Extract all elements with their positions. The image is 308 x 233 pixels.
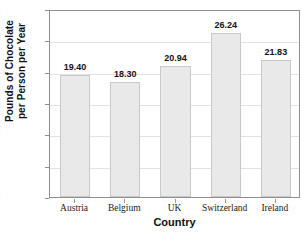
y-axis-tick-mark <box>45 198 49 199</box>
bar <box>160 66 190 197</box>
y-axis-title: Pounds of Chocolate per Person per Year <box>3 0 29 149</box>
x-axis-tick-label: UK <box>168 203 182 213</box>
x-axis-tick-label: Austria <box>60 203 88 213</box>
y-axis-title-line-2: per Person per Year <box>16 23 28 119</box>
bar-value-label: 21.83 <box>247 47 305 57</box>
bar-value-label: 26.24 <box>197 20 255 30</box>
plot-area: 19.4018.3020.9426.2421.83 <box>49 10 300 198</box>
bar-slot: 18.30 <box>110 11 140 197</box>
y-axis-title-line-1: Pounds of Chocolate <box>4 20 16 122</box>
bar-slot: 19.40 <box>60 11 90 197</box>
bar-slot: 21.83 <box>261 11 291 197</box>
bar <box>261 60 291 197</box>
bar-slot: 26.24 <box>211 11 241 197</box>
chart-title-cropped <box>0 0 308 6</box>
bar <box>110 82 140 197</box>
x-axis-tick-label: Ireland <box>261 203 288 213</box>
bar-value-label: 18.30 <box>96 69 154 79</box>
x-axis-title: Country <box>49 216 300 228</box>
bar-slot: 20.94 <box>160 11 190 197</box>
bar-chart-figure: Pounds of Chocolate per Person per Year … <box>0 0 308 233</box>
bar <box>60 75 90 197</box>
x-axis-tick-label: Switzerland <box>202 203 247 213</box>
bar-value-label: 20.94 <box>146 53 204 63</box>
bar <box>211 33 241 197</box>
x-axis-tick-label: Belgium <box>108 203 141 213</box>
